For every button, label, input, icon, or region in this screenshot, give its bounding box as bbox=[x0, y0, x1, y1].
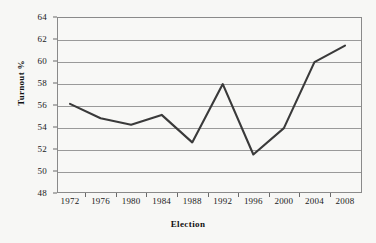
y-tick-mark bbox=[53, 105, 57, 106]
x-tick-mark bbox=[116, 193, 117, 197]
x-tick-label: 2000 bbox=[274, 196, 293, 206]
x-tick-label: 1984 bbox=[152, 196, 171, 206]
y-tick-mark bbox=[53, 193, 57, 194]
gridline bbox=[58, 62, 361, 63]
y-tick-mark bbox=[53, 149, 57, 150]
y-tick-label: 58 bbox=[38, 78, 47, 88]
y-tick-mark bbox=[53, 83, 57, 84]
gridline bbox=[58, 172, 361, 173]
x-tick-mark bbox=[330, 193, 331, 197]
x-tick-mark bbox=[238, 193, 239, 197]
x-tick-label: 1980 bbox=[122, 196, 141, 206]
gridline bbox=[58, 106, 361, 107]
y-tick-label: 60 bbox=[38, 56, 47, 66]
x-axis-tick-labels: 1972197619801984198819921996200020042008 bbox=[57, 196, 362, 212]
y-tick-mark bbox=[53, 171, 57, 172]
y-tick-mark bbox=[53, 127, 57, 128]
plot-area bbox=[57, 17, 362, 193]
x-tick-mark bbox=[269, 193, 270, 197]
x-tick-mark bbox=[146, 193, 147, 197]
y-tick-mark bbox=[53, 61, 57, 62]
y-tick-label: 54 bbox=[38, 122, 47, 132]
y-tick-label: 50 bbox=[38, 166, 47, 176]
y-axis-title: Turnout % bbox=[16, 48, 26, 118]
y-tick-label: 62 bbox=[38, 34, 47, 44]
y-tick-label: 48 bbox=[38, 188, 47, 198]
gridline bbox=[58, 40, 361, 41]
x-tick-label: 2004 bbox=[305, 196, 324, 206]
y-tick-label: 64 bbox=[38, 12, 47, 22]
gridline bbox=[58, 84, 361, 85]
x-tick-label: 2008 bbox=[336, 196, 355, 206]
x-tick-mark bbox=[85, 193, 86, 197]
y-tick-mark bbox=[53, 17, 57, 18]
x-axis-title: Election bbox=[0, 219, 376, 229]
y-tick-mark bbox=[53, 39, 57, 40]
x-tick-label: 1972 bbox=[61, 196, 80, 206]
x-tick-mark bbox=[208, 193, 209, 197]
x-tick-mark bbox=[177, 193, 178, 197]
y-tick-label: 52 bbox=[38, 144, 47, 154]
gridline bbox=[58, 128, 361, 129]
gridline bbox=[58, 150, 361, 151]
x-tick-label: 1996 bbox=[244, 196, 263, 206]
x-tick-mark bbox=[299, 193, 300, 197]
x-tick-label: 1988 bbox=[183, 196, 202, 206]
x-tick-label: 1992 bbox=[213, 196, 232, 206]
y-axis-tick-labels: 646260585654525048 bbox=[0, 17, 53, 193]
turnout-line-chart: 646260585654525048 Turnout % 19721976198… bbox=[0, 0, 376, 243]
y-tick-label: 56 bbox=[38, 100, 47, 110]
x-tick-label: 1976 bbox=[91, 196, 110, 206]
